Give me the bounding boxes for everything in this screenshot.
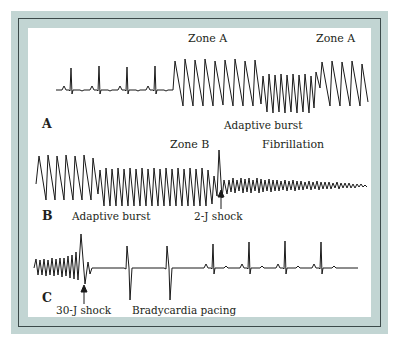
panel-label-c: C <box>42 290 52 305</box>
rhythm-strip-a: Zone A Zone A A Adaptive burst <box>28 28 371 138</box>
annotation-adaptive-burst-b: Adaptive burst <box>72 210 150 222</box>
panel-label-a: A <box>42 116 52 131</box>
annotation-bradycardia-pacing: Bradycardia pacing <box>132 304 236 316</box>
shock-arrow-2j <box>218 190 224 209</box>
rhythm-strip-b: Zone B Fibrillation B Adaptive burst 2-J… <box>28 136 371 231</box>
shock-arrow-30j <box>81 285 87 304</box>
annotation-adaptive-burst-a: Adaptive burst <box>224 119 302 131</box>
annotation-2j-shock: 2-J shock <box>194 210 243 222</box>
figure-plot-area: Zone A Zone A A Adaptive burst Zone B Fi… <box>28 28 371 317</box>
ecg-trace-a <box>28 28 371 138</box>
figure-container: Zone A Zone A A Adaptive burst Zone B Fi… <box>0 0 399 361</box>
panel-label-b: B <box>42 208 53 223</box>
annotation-30j-shock: 30-J shock <box>56 304 111 316</box>
rhythm-strip-c: C 30-J shock Bradycardia pacing <box>28 228 371 317</box>
